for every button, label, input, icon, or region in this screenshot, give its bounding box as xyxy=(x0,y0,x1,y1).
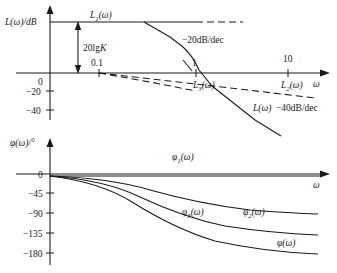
label-phi2-omega: (ω) xyxy=(252,207,265,218)
label-l3-omega: (ω) xyxy=(202,80,215,91)
label-l1-omega: (ω) xyxy=(99,10,112,21)
svg-text:φ3(ω): φ3(ω) xyxy=(182,207,204,219)
label-l2-omega: (ω) xyxy=(290,80,303,91)
magnitude-x-axis-label: ω xyxy=(313,79,320,89)
label-phi2: φ2(ω) xyxy=(243,207,265,219)
svg-text:20lgK: 20lgK xyxy=(83,43,107,53)
magnitude-xtick-10: 10 xyxy=(283,54,293,64)
phase-ytick-180: −180 xyxy=(23,249,43,259)
phase-plot: φ(ω)/° 0 −45 −90 −135 −180 ω φ1(ω) φ3(ω) xyxy=(10,138,330,265)
curve-phi3 xyxy=(50,176,318,235)
label-l3: L3(ω) xyxy=(192,80,215,92)
label-l1: L1(ω) xyxy=(89,10,112,22)
label-phi3: φ3(ω) xyxy=(182,207,204,219)
svg-text:φ(ω): φ(ω) xyxy=(277,238,295,249)
label-phi-total: φ(ω) xyxy=(277,238,295,249)
magnitude-xtick-1: 1 xyxy=(192,58,197,68)
phase-y-axis-label: φ(ω)/° xyxy=(10,138,35,149)
phase-ytick-45: −45 xyxy=(28,189,43,199)
slope-label-20db: −20dB/dec xyxy=(182,35,224,45)
magnitude-y-axis-label: L(ω)/dB xyxy=(4,17,37,28)
svg-text:L2(ω): L2(ω) xyxy=(280,80,303,92)
gain-annotation-k: K xyxy=(99,43,107,53)
label-l2: L2(ω) xyxy=(280,80,303,92)
phase-y-axis xyxy=(47,138,54,265)
phase-ytick-90: −90 xyxy=(28,209,43,219)
gain-double-arrow xyxy=(75,21,81,74)
svg-text:φ2(ω): φ2(ω) xyxy=(243,207,265,219)
figure-svg: L(ω)/dB 0 −20 −40 0.1 1 10 ω 20lgK −20dB… xyxy=(0,0,337,273)
label-phi1-omega: (ω) xyxy=(181,152,194,163)
magnitude-x-axis xyxy=(16,70,330,77)
label-l-total: L(ω) xyxy=(252,103,271,114)
label-phi1: φ1(ω) xyxy=(172,152,194,164)
svg-text:L3(ω): L3(ω) xyxy=(192,80,215,92)
gain-annotation: 20lgK xyxy=(83,43,107,53)
svg-text:φ1(ω): φ1(ω) xyxy=(172,152,194,164)
bode-plot-figure: L(ω)/dB 0 −20 −40 0.1 1 10 ω 20lgK −20dB… xyxy=(0,0,337,273)
magnitude-plot: L(ω)/dB 0 −20 −40 0.1 1 10 ω 20lgK −20dB… xyxy=(4,5,330,136)
phase-ytick-0: 0 xyxy=(38,170,43,180)
magnitude-xtick-0p1: 0.1 xyxy=(91,58,103,68)
svg-text:L1(ω): L1(ω) xyxy=(89,10,112,22)
magnitude-ytick-minus40: −40 xyxy=(26,106,41,116)
slope-label-40db: −40dB/dec xyxy=(276,103,318,113)
curve-break-marker xyxy=(183,60,192,71)
gain-annotation-text: 20lg xyxy=(83,43,100,53)
svg-text:L(ω): L(ω) xyxy=(252,103,271,114)
label-phi3-omega: (ω) xyxy=(191,207,204,218)
phase-ytick-135: −135 xyxy=(23,229,43,239)
magnitude-ytick-minus20: −20 xyxy=(26,87,41,97)
label-l-total-omega: (ω) xyxy=(258,103,271,114)
magnitude-ytick-0: 0 xyxy=(38,77,43,87)
phase-x-axis-label: ω xyxy=(313,180,320,190)
label-phi-total-omega: (ω) xyxy=(282,238,295,249)
